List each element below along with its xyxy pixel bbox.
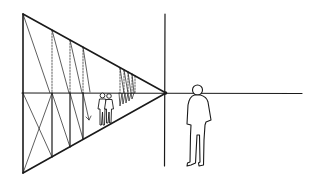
horizon-line — [22, 93, 302, 94]
vertical-reference-line — [165, 14, 166, 166]
background-figures — [98, 93, 114, 125]
perspective-diagram: Line drawing showing a one-point perspec… — [0, 0, 318, 188]
upper-wall-bracing — [23, 14, 135, 93]
person-small-2 — [105, 94, 114, 123]
corridor-bottom-diagonal — [23, 93, 166, 173]
vanishing-point — [164, 91, 168, 95]
lower-wall-bracing — [23, 93, 134, 173]
perspective-drawing — [0, 0, 318, 188]
corridor-top-diagonal — [23, 14, 166, 93]
foreground-person — [187, 85, 211, 166]
